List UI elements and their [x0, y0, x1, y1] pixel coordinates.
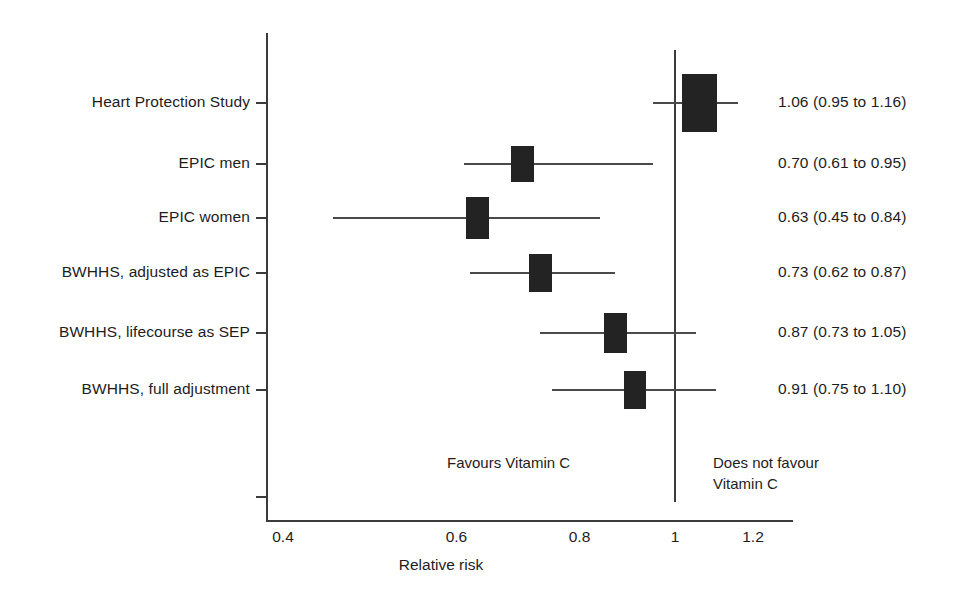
effect-estimate-text: 0.63 (0.45 to 0.84): [778, 208, 907, 226]
y-axis-line: [266, 33, 268, 522]
study-label: BWHHS, full adjustment: [20, 380, 250, 398]
x-axis-title: Relative risk: [0, 556, 966, 574]
confidence-interval-line: [464, 163, 654, 164]
point-estimate-marker: [604, 313, 627, 353]
y-axis-tick: [256, 389, 267, 391]
study-label: BWHHS, adjusted as EPIC: [20, 263, 250, 281]
y-axis-tick: [256, 217, 267, 219]
point-estimate-marker: [511, 146, 534, 182]
effect-estimate-text: 0.70 (0.61 to 0.95): [778, 154, 907, 172]
y-axis-tick: [256, 496, 267, 498]
study-label: BWHHS, lifecourse as SEP: [20, 323, 250, 341]
x-axis-tick-label: 0.4: [272, 528, 294, 546]
x-axis-tick-label: 0.8: [569, 528, 591, 546]
study-label: EPIC women: [20, 208, 250, 226]
x-axis-tick-label: 1.2: [742, 528, 764, 546]
annotation-not-favours: Does not favour Vitamin C: [713, 452, 819, 494]
effect-estimate-text: 0.73 (0.62 to 0.87): [778, 263, 907, 281]
study-label: EPIC men: [20, 154, 250, 172]
x-axis-tick-label: 1: [671, 528, 680, 546]
forest-plot: Heart Protection Study1.06 (0.95 to 1.16…: [0, 0, 966, 603]
y-axis-tick: [256, 332, 267, 334]
x-axis-tick-label: 0.6: [446, 528, 468, 546]
x-axis-line: [266, 520, 793, 522]
point-estimate-marker: [529, 254, 552, 292]
annotation-favours: Favours Vitamin C: [447, 452, 570, 473]
y-axis-tick: [256, 102, 267, 104]
effect-estimate-text: 0.91 (0.75 to 1.10): [778, 380, 907, 398]
point-estimate-marker: [466, 197, 489, 239]
y-axis-tick: [256, 272, 267, 274]
point-estimate-marker: [624, 371, 646, 409]
effect-estimate-text: 0.87 (0.73 to 1.05): [778, 323, 907, 341]
y-axis-tick: [256, 163, 267, 165]
effect-estimate-text: 1.06 (0.95 to 1.16): [778, 93, 907, 111]
point-estimate-marker: [682, 74, 717, 132]
null-reference-line: [674, 50, 676, 502]
study-label: Heart Protection Study: [20, 93, 250, 111]
x-axis-title-text: Relative risk: [399, 556, 483, 573]
